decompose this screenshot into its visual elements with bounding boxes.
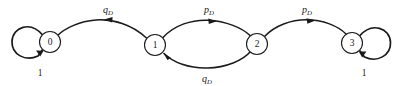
self-loop-node-3 bbox=[359, 28, 391, 59]
edge-2-to-1-label: qD bbox=[202, 73, 212, 85]
node-1[interactable]: 1 bbox=[145, 35, 166, 56]
edge-1-to-2-path bbox=[163, 20, 250, 37]
node-3[interactable]: 3 bbox=[342, 33, 363, 54]
edge-1-to-2-arrowhead bbox=[208, 18, 217, 24]
node-3-label: 3 bbox=[350, 38, 355, 48]
edge-2-to-1 bbox=[163, 52, 251, 69]
edge-1-to-2-label: pD bbox=[203, 4, 214, 16]
edge-2-to-3 bbox=[265, 18, 347, 36]
node-0[interactable]: 0 bbox=[40, 32, 61, 53]
state-diagram-canvas: 1 qD pD qD pD 1 bbox=[0, 0, 400, 86]
edge-2-to-1-path bbox=[164, 52, 251, 69]
edge-2-to-3-path bbox=[265, 20, 347, 37]
node-2[interactable]: 2 bbox=[247, 34, 268, 55]
edge-2-to-3-label-subscript: D bbox=[306, 9, 312, 16]
edge-2-to-3-arrowhead bbox=[307, 18, 316, 24]
edge-2-to-3-label: pD bbox=[301, 4, 312, 16]
self-loop-0-label: 1 bbox=[38, 68, 43, 78]
edge-1-to-0-label: qD bbox=[103, 4, 113, 16]
edge-1-to-0-arrowhead bbox=[104, 17, 113, 23]
edge-1-to-0-path bbox=[58, 20, 147, 38]
edge-1-to-0-label-subscript: D bbox=[107, 9, 113, 16]
self-loop-node-0 bbox=[12, 27, 44, 58]
edge-2-to-1-label-subscript: D bbox=[206, 78, 212, 85]
node-1-label: 1 bbox=[153, 40, 158, 50]
edge-1-to-2 bbox=[163, 18, 250, 37]
self-loop-3-label: 1 bbox=[362, 68, 367, 78]
edge-1-to-2-label-subscript: D bbox=[208, 9, 214, 16]
edge-1-to-0 bbox=[58, 17, 147, 38]
node-2-label: 2 bbox=[255, 39, 260, 49]
state-diagram-container: 1 qD pD qD pD 1 bbox=[0, 0, 400, 86]
node-0-label: 0 bbox=[48, 37, 53, 47]
